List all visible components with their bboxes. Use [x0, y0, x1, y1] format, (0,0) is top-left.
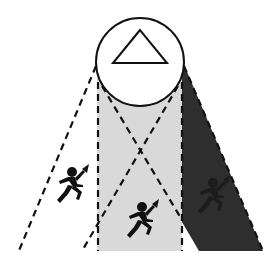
- diagram-canvas: [0, 0, 278, 261]
- field-of-view-diagram: [0, 0, 278, 261]
- runner-left-figure: [57, 164, 89, 203]
- left-outer-boundary: [18, 66, 96, 253]
